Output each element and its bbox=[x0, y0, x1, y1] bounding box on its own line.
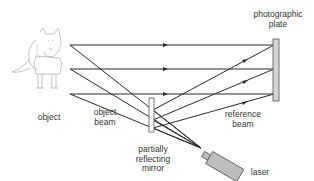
object-beam-label: object beam bbox=[85, 108, 125, 127]
laser-label: laser bbox=[247, 168, 273, 178]
partially-reflecting-mirror bbox=[149, 98, 154, 132]
wolf-object-icon bbox=[12, 28, 62, 88]
object-label: object bbox=[34, 113, 64, 123]
photographic-plate-label: photographic plate bbox=[244, 10, 312, 29]
laser-icon bbox=[200, 148, 244, 181]
photographic-plate bbox=[273, 39, 279, 101]
mirror-label: partially reflecting mirror bbox=[129, 145, 177, 174]
reference-beam-label: reference beam bbox=[218, 110, 268, 129]
arrowheads bbox=[163, 43, 248, 105]
reference-beam-1 bbox=[153, 45, 274, 110]
